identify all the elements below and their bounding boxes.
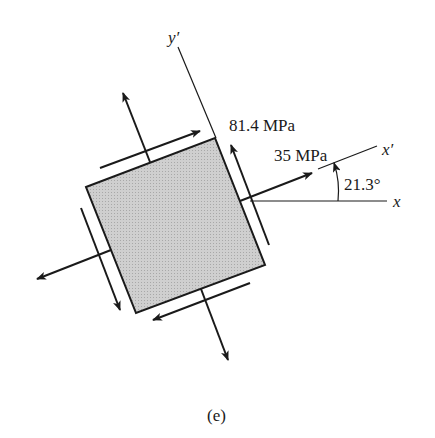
normal-arrow-left (37, 250, 111, 279)
shear-stress-label: 35 MPa (274, 146, 328, 165)
figure-caption: (e) (207, 406, 226, 425)
yprime-axis-line (178, 47, 216, 138)
stress-element-diagram: y′ 81.4 MPa 35 MPa x′ 21.3° x (e) (0, 0, 435, 438)
x-axis-label: x (392, 192, 401, 211)
normal-stress-label: 81.4 MPa (229, 116, 296, 135)
yprime-axis-label: y′ (166, 28, 180, 47)
angle-arc (334, 163, 339, 201)
angle-label: 21.3° (344, 175, 381, 194)
xprime-axis-label: x′ (381, 140, 394, 159)
